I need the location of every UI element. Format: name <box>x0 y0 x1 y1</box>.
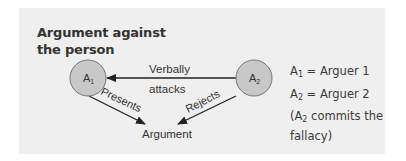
legend-note: (A2 commits thefallacy) <box>290 108 383 144</box>
rejects-label: Rejects <box>183 87 222 115</box>
presents-label: Presents <box>99 85 144 114</box>
verbally-label: Verbally <box>149 63 190 75</box>
argument-node-label: Argument <box>142 128 193 140</box>
legend-a2: A2 = Arguer 2 <box>290 86 370 106</box>
attacks-label: attacks <box>149 83 186 95</box>
legend-a1: A1 = Arguer 1 <box>290 63 370 83</box>
